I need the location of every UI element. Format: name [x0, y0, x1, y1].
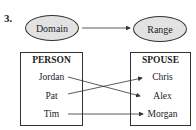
- mapping-arrows: [0, 0, 196, 130]
- arrow-pat-chris: [68, 78, 142, 94]
